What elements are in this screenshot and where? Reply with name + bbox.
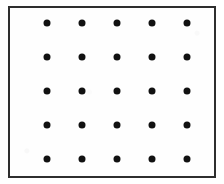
figure-canvas [0,0,224,184]
diagram-frame [8,6,216,178]
